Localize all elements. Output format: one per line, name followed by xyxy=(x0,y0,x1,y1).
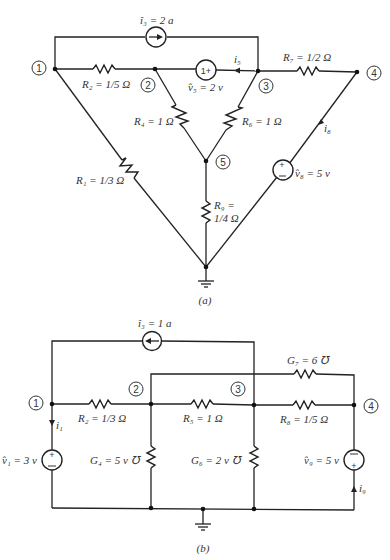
junction-node-3 xyxy=(252,403,257,408)
v1-label: v̂₁ = 3 v xyxy=(2,454,37,466)
v8-plus: + xyxy=(279,160,284,170)
i5-arrow-icon xyxy=(234,68,240,74)
v9-label: v̂₉ = 5 v xyxy=(304,454,339,466)
g6-label: G₆ = 2 v ℧ xyxy=(191,454,242,466)
caption-b: (b) xyxy=(197,542,210,555)
wire xyxy=(316,374,354,405)
i9-arrow-icon xyxy=(351,486,357,492)
v5-label: v̂₅ = 2 v xyxy=(188,81,223,93)
wire xyxy=(184,128,206,161)
wire xyxy=(155,69,176,105)
resistor-r2 xyxy=(89,400,111,408)
junction-node-2 xyxy=(153,67,158,72)
wire xyxy=(238,71,258,107)
svg-text:3: 3 xyxy=(235,384,241,395)
junction-node-1 xyxy=(50,402,55,407)
i9-label: i₉ xyxy=(359,482,366,494)
junction-node-3 xyxy=(256,69,261,74)
node-label-2: 2 xyxy=(141,78,155,92)
r5-label: R₅ = 1 Ω xyxy=(182,412,223,424)
node-label-3: 3 xyxy=(231,382,245,396)
v5-polarity: 1+ xyxy=(201,66,211,76)
r6-label: R₆ = 1 Ω xyxy=(241,115,282,127)
i8-label: i₈ xyxy=(324,122,331,134)
wire xyxy=(213,404,254,405)
svg-text:4: 4 xyxy=(368,401,374,412)
node-label-1: 1 xyxy=(29,396,43,410)
ground-icon xyxy=(195,524,211,530)
g4-label: G₄ = 5 v ℧ xyxy=(90,454,141,466)
resistor-g6 xyxy=(250,446,258,468)
resistor-r7 xyxy=(297,67,319,75)
junction-node-1 xyxy=(53,67,58,72)
resistor-r5 xyxy=(191,400,213,408)
junction-bottom xyxy=(149,506,154,511)
v1-plus: + xyxy=(49,450,54,460)
svg-text:4: 4 xyxy=(371,68,377,79)
r9-label-2: 1/4 Ω xyxy=(214,212,239,224)
wire xyxy=(151,374,294,404)
circuit-b: î₃ = 1 a G₇ = 6 ℧ R₂ = 1/3 Ω R₅ = 1 Ω R₈… xyxy=(2,317,378,555)
node-label-1: 1 xyxy=(32,61,46,75)
circuit-a: î₃ = 2 a R₂ = 1/5 Ω 1+ i₅ v̂₅ = 2 v R₇ =… xyxy=(32,14,381,307)
resistor-g4 xyxy=(147,446,155,468)
r9-label-1: R₉ = xyxy=(213,199,235,211)
node-label-4: 4 xyxy=(367,66,381,80)
i1-label: i₁ xyxy=(56,419,63,431)
wire xyxy=(289,72,357,164)
r7-label: R₇ = 1/2 Ω xyxy=(282,51,331,63)
node-label-4: 4 xyxy=(364,399,378,413)
r2-label: R₂ = 1/3 Ω xyxy=(77,412,126,424)
resistor-r9 xyxy=(202,201,210,223)
circuit-diagrams: î₃ = 2 a R₂ = 1/5 Ω 1+ i₅ v̂₅ = 2 v R₇ =… xyxy=(0,0,390,560)
junction-node-4 xyxy=(352,403,357,408)
resistor-r4 xyxy=(172,105,188,128)
svg-text:1: 1 xyxy=(36,63,42,74)
wire xyxy=(55,37,145,69)
v8-label: v̂₈ = 5 v xyxy=(295,167,330,179)
wire xyxy=(319,71,357,72)
node-label-5: 5 xyxy=(216,155,230,169)
svg-text:2: 2 xyxy=(145,80,151,91)
junction-node-5 xyxy=(204,159,209,164)
resistor-r2 xyxy=(93,65,115,73)
i5-label: i₅ xyxy=(234,53,241,65)
ground-icon xyxy=(198,281,214,287)
junction-node-2 xyxy=(149,402,154,407)
r2-label: R₂ = 1/5 Ω xyxy=(81,78,130,90)
svg-text:3: 3 xyxy=(263,81,269,92)
i3-label: î₃ = 2 a xyxy=(140,14,174,26)
svg-text:2: 2 xyxy=(133,384,139,395)
resistor-r8 xyxy=(293,401,315,409)
node-label-2: 2 xyxy=(129,382,143,396)
junction-bottom xyxy=(252,507,257,512)
r8-label: R₈ = 1/5 Ω xyxy=(279,413,328,425)
resistor-r6 xyxy=(224,107,242,130)
r4-label: R₄ = 1 Ω xyxy=(133,115,174,127)
svg-text:5: 5 xyxy=(220,157,226,168)
wire xyxy=(52,341,143,404)
i1-arrow-icon xyxy=(49,420,55,426)
v9-plus: + xyxy=(351,461,356,471)
node-label-3: 3 xyxy=(259,79,273,93)
r1-label: R₁ = 1/3 Ω xyxy=(75,174,124,186)
junction-ground xyxy=(204,265,209,270)
svg-text:1: 1 xyxy=(33,398,39,409)
caption-a: (a) xyxy=(199,294,212,307)
i3-label: î₃ = 1 a xyxy=(138,317,172,329)
g7-label: G₇ = 6 ℧ xyxy=(287,354,330,366)
junction-ground xyxy=(201,507,206,512)
resistor-g7 xyxy=(294,370,316,378)
wire xyxy=(134,178,206,267)
junction-node-4 xyxy=(355,70,360,75)
